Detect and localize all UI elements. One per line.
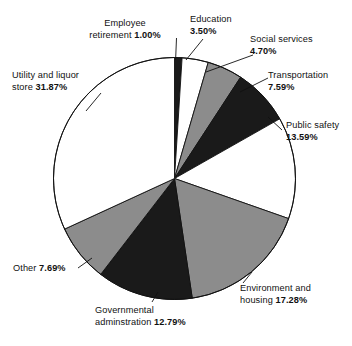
label-text-employee-retirement-line2: retirement (89, 30, 131, 40)
label-text-utility-line2: store (12, 82, 33, 92)
label-value-transportation: 7.59% (268, 82, 295, 92)
pie-label-environment-housing: Environment and housing 17.28% (240, 283, 352, 306)
label-value-education: 3.50% (190, 26, 217, 36)
pie-label-utility-liquor-store: Utility and liquor store 31.87% (12, 70, 122, 93)
label-text-governmental-line2: adminstration (95, 317, 151, 327)
label-text-social-services: Social services (250, 34, 313, 44)
label-text-utility-line1: Utility and liquor (12, 70, 79, 80)
pie-label-employee-retirement: Employee retirement 1.00% (72, 18, 178, 41)
label-text-public-safety: Public safety (286, 120, 339, 130)
label-text-transportation: Transportation (268, 70, 328, 80)
pie-label-transportation: Transportation 7.59% (268, 70, 352, 93)
leader-line-employee-retirement (176, 38, 177, 60)
pie-label-governmental-administration: Governmental adminstration 12.79% (95, 305, 245, 328)
pie-label-public-safety: Public safety 13.59% (286, 120, 352, 143)
label-value-governmental: 12.79% (154, 317, 186, 327)
leader-line-education (186, 39, 203, 60)
label-text-other: Other (13, 263, 36, 273)
label-text-education: Education (190, 14, 232, 24)
pie-label-other: Other 7.69% (13, 263, 93, 275)
pie-chart: Employee retirement 1.00%Education 3.50%… (0, 0, 352, 346)
label-value-other: 7.69% (39, 263, 66, 273)
label-text-employee-retirement-line1: Employee (104, 18, 146, 28)
label-value-public-safety: 13.59% (286, 132, 318, 142)
label-text-environment-housing-line1: Environment and (240, 283, 311, 293)
pie-label-social-services: Social services 4.70% (250, 34, 346, 57)
label-value-social-services: 4.70% (250, 46, 277, 56)
label-value-utility: 31.87% (36, 82, 68, 92)
label-value-environment-housing: 17.28% (275, 295, 307, 305)
label-text-governmental-line1: Governmental (95, 305, 154, 315)
label-value-employee-retirement: 1.00% (134, 30, 161, 40)
label-text-environment-housing-line2: housing (240, 295, 273, 305)
